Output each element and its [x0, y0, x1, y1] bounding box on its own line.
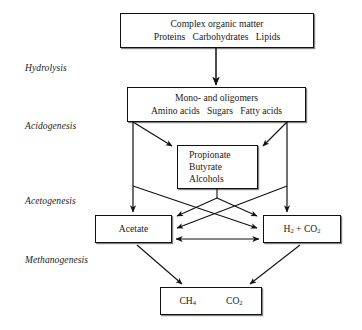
diagram-canvas: Hydrolysis Acidogenesis Acetogenesis Met… [0, 0, 362, 330]
text-methane: CH4 [179, 295, 196, 308]
arrow-monomers-to-intermediates-right [263, 122, 287, 146]
node-hydrogen-carbon-dioxide: H2 + CO2 [263, 215, 341, 243]
node-monomers-line1: Mono- and oligomers [175, 92, 258, 104]
text-plus-co: + CO [294, 223, 318, 234]
text-fatty-acids: Fatty acids [240, 105, 282, 116]
node-intermediates: Propionate Butyrate Alcohols [177, 145, 258, 189]
node-monomers-line2: Amino acids Sugars Fatty acids [151, 105, 282, 117]
node-intermediates-line3: Alcohols [178, 173, 257, 185]
text-carbon-dioxide: CO2 [226, 295, 243, 308]
node-monomers-oligomers: Mono- and oligomers Amino acids Sugars F… [127, 87, 306, 122]
text-carbohydrates: Carbohydrates [192, 31, 248, 42]
node-hydrogen-label: H2 + CO2 [283, 223, 320, 236]
node-complex-organic-matter: Complex organic matter Proteins Carbohyd… [120, 13, 314, 48]
node-methane-label: CH4 CO2 [161, 295, 261, 308]
arrow-hydrogen-to-methane [250, 245, 300, 284]
text-amino-acids: Amino acids [151, 105, 200, 116]
stage-label-acetogenesis: Acetogenesis [25, 196, 76, 206]
text-co2-subscript-bottom: 2 [239, 299, 242, 306]
node-methane-carbon-dioxide: CH4 CO2 [160, 287, 262, 315]
node-organic-line2: Proteins Carbohydrates Lipids [154, 31, 280, 43]
text-lipids: Lipids [256, 31, 281, 42]
text-ch4-subscript: 4 [193, 299, 196, 306]
node-acetate-label: Acetate [119, 223, 148, 235]
node-intermediates-line1: Propionate [178, 149, 257, 161]
text-co2-subscript: 2 [317, 227, 320, 234]
text-sugars: Sugars [207, 105, 233, 116]
stage-label-acidogenesis: Acidogenesis [25, 121, 76, 131]
arrow-intermediates-to-hydrogen [217, 198, 257, 216]
arrow-monomers-to-intermediates-left [133, 122, 172, 146]
node-acetate: Acetate [95, 215, 172, 243]
arrow-intermediates-to-acetate [177, 198, 217, 216]
node-organic-line1: Complex organic matter [170, 18, 263, 30]
node-intermediates-line2: Butyrate [178, 161, 257, 173]
stage-label-hydrolysis: Hydrolysis [25, 63, 67, 73]
text-proteins: Proteins [154, 31, 185, 42]
stage-label-methanogenesis: Methanogenesis [25, 255, 88, 265]
arrow-acetate-to-methane [137, 245, 182, 284]
